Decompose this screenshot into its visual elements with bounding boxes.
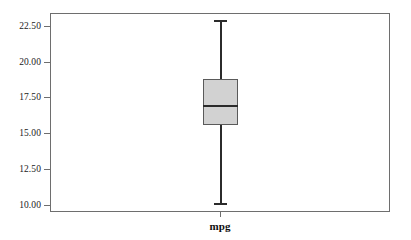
- y-axis-tick-label: 17.50: [0, 92, 41, 102]
- y-axis-tick-label: 15.00: [0, 128, 41, 138]
- y-axis-tick-label: 20.00: [0, 57, 41, 67]
- x-axis-tick-label: mpg: [180, 220, 260, 233]
- box-iqr: [203, 79, 238, 125]
- upper-whisker-cap: [214, 20, 227, 22]
- y-axis-tick-mark: [44, 205, 50, 206]
- y-axis-tick-label: 10.00: [0, 200, 41, 210]
- y-axis-tick-mark: [44, 97, 50, 98]
- y-axis-tick-label: 12.50: [0, 164, 41, 174]
- y-axis-tick-label: 22.50: [0, 21, 41, 31]
- lower-whisker-cap: [214, 203, 227, 205]
- y-axis-tick-mark: [44, 62, 50, 63]
- y-axis-tick-mark: [44, 26, 50, 27]
- boxplot-chart: 22.5020.0017.5015.0012.5010.00 mpg: [0, 0, 411, 240]
- y-axis-tick-mark: [44, 169, 50, 170]
- y-axis-tick-mark: [44, 133, 50, 134]
- median-line: [203, 105, 238, 107]
- x-axis-tick-mark: [220, 212, 221, 217]
